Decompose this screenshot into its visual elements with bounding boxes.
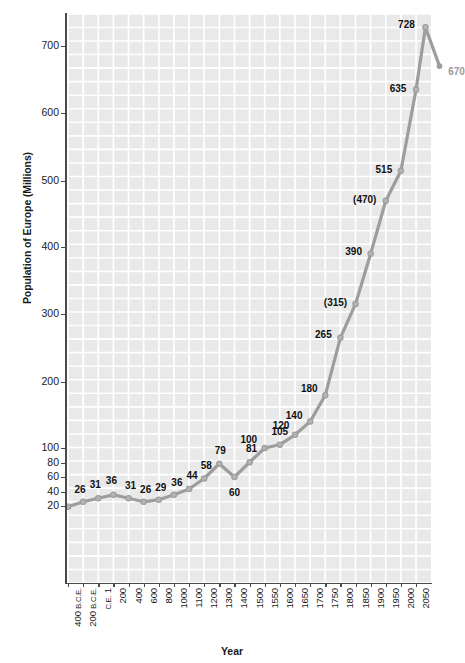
data-point-label: 31 bbox=[125, 480, 136, 491]
y-tick-label: 60 bbox=[7, 470, 59, 482]
x-tick-mark bbox=[325, 583, 326, 587]
x-tick-label: 1950 bbox=[390, 588, 401, 609]
y-axis-title: Population of Europe (Millions) bbox=[21, 123, 33, 333]
x-tick-label: 1650 bbox=[299, 588, 310, 609]
y-tick-mark bbox=[61, 506, 66, 507]
x-tick-label: 1200 bbox=[208, 588, 219, 609]
data-point-label: 635 bbox=[390, 82, 407, 93]
x-tick-mark bbox=[174, 583, 175, 587]
x-tick-mark bbox=[310, 583, 311, 587]
y-tick-label: 20 bbox=[7, 499, 59, 511]
x-tick-mark bbox=[144, 583, 145, 587]
x-tick-label: 1000 bbox=[178, 588, 189, 609]
x-tick-mark bbox=[416, 583, 417, 587]
data-point-label: 36 bbox=[106, 474, 117, 485]
x-tick-label: 200 B.C.E. bbox=[87, 588, 98, 627]
population-series bbox=[66, 13, 431, 583]
y-tick-mark bbox=[61, 492, 66, 493]
x-tick-label: 1800 bbox=[344, 588, 355, 609]
data-point-label: 31 bbox=[90, 479, 101, 490]
x-tick-label: C.E. 1 bbox=[102, 588, 113, 610]
projected-value-label: 670 bbox=[448, 66, 465, 77]
y-tick-label: 500 bbox=[7, 174, 59, 186]
x-tick-mark bbox=[280, 583, 281, 587]
x-tick-label: 1900 bbox=[375, 588, 386, 609]
y-tick-label: 600 bbox=[7, 106, 59, 118]
x-tick-label: 1700 bbox=[314, 588, 325, 609]
x-tick-mark bbox=[189, 583, 190, 587]
y-tick-label: 300 bbox=[7, 307, 59, 319]
x-tick-label: 1850 bbox=[360, 588, 371, 609]
y-tick-label: 40 bbox=[7, 485, 59, 497]
y-tick-label: 100 bbox=[7, 441, 59, 453]
data-point-label: 26 bbox=[140, 483, 151, 494]
x-tick-label: 400 bbox=[133, 588, 144, 603]
y-tick-label: 200 bbox=[7, 375, 59, 387]
data-point-label: 44 bbox=[186, 470, 197, 481]
y-tick-mark bbox=[61, 113, 66, 114]
x-tick-mark bbox=[159, 583, 160, 587]
plot-area bbox=[66, 13, 431, 583]
y-tick-mark bbox=[61, 382, 66, 383]
data-point-label: 140 bbox=[286, 409, 303, 420]
x-tick-label: 1550 bbox=[269, 588, 280, 609]
x-tick-mark bbox=[340, 583, 341, 587]
x-tick-mark bbox=[401, 583, 402, 587]
x-tick-label: 1300 bbox=[223, 588, 234, 609]
x-axis-title: Year bbox=[0, 645, 464, 657]
data-point-label: 180 bbox=[301, 383, 318, 394]
x-tick-mark bbox=[68, 583, 69, 587]
x-tick-mark bbox=[234, 583, 235, 587]
x-tick-label: 400 B.C.E. bbox=[72, 588, 83, 627]
y-tick-label: 400 bbox=[7, 240, 59, 252]
data-point-label: 36 bbox=[171, 476, 182, 487]
data-point-label: 29 bbox=[155, 481, 166, 492]
data-point-label: 265 bbox=[315, 328, 332, 339]
y-tick-mark bbox=[61, 181, 66, 182]
x-tick-label: 1500 bbox=[254, 588, 265, 609]
y-tick-label: 80 bbox=[7, 456, 59, 468]
x-tick-label: 600 bbox=[148, 588, 159, 603]
data-point-label: 515 bbox=[376, 163, 393, 174]
x-tick-mark bbox=[219, 583, 220, 587]
x-tick-mark bbox=[204, 583, 205, 587]
data-point-label: 60 bbox=[229, 487, 240, 498]
x-tick-mark bbox=[113, 583, 114, 587]
x-tick-mark bbox=[386, 583, 387, 587]
data-point-label: (470) bbox=[353, 193, 376, 204]
data-point-label: 120 bbox=[273, 419, 290, 430]
y-tick-mark bbox=[61, 46, 66, 47]
y-tick-mark bbox=[61, 477, 66, 478]
x-tick-label: 200 bbox=[117, 588, 128, 603]
y-tick-mark bbox=[61, 448, 66, 449]
y-tick-mark bbox=[61, 314, 66, 315]
x-tick-mark bbox=[371, 583, 372, 587]
data-point-label: 26 bbox=[75, 483, 86, 494]
x-tick-label: 2050 bbox=[420, 588, 431, 609]
data-point-label: 390 bbox=[345, 245, 362, 256]
y-tick-mark bbox=[61, 247, 66, 248]
x-tick-mark bbox=[356, 583, 357, 587]
x-tick-mark bbox=[129, 583, 130, 587]
x-tick-mark bbox=[98, 583, 99, 587]
x-tick-label: 1600 bbox=[284, 588, 295, 609]
data-point-label: 100 bbox=[240, 434, 257, 445]
x-tick-label: 2000 bbox=[405, 588, 416, 609]
data-point-label: 79 bbox=[215, 444, 226, 455]
y-tick-label: 700 bbox=[7, 39, 59, 51]
x-tick-label: 1400 bbox=[238, 588, 249, 609]
x-tick-mark bbox=[295, 583, 296, 587]
x-tick-mark bbox=[265, 583, 266, 587]
data-point-label: 728 bbox=[398, 19, 415, 30]
x-tick-label: 1100 bbox=[193, 588, 204, 608]
x-tick-label: 800 bbox=[163, 588, 174, 603]
data-point-label: (315) bbox=[324, 296, 347, 307]
x-tick-label: 1750 bbox=[329, 588, 340, 609]
x-tick-mark bbox=[83, 583, 84, 587]
x-tick-mark bbox=[250, 583, 251, 587]
data-point-label: 58 bbox=[201, 459, 212, 470]
y-tick-mark bbox=[61, 463, 66, 464]
